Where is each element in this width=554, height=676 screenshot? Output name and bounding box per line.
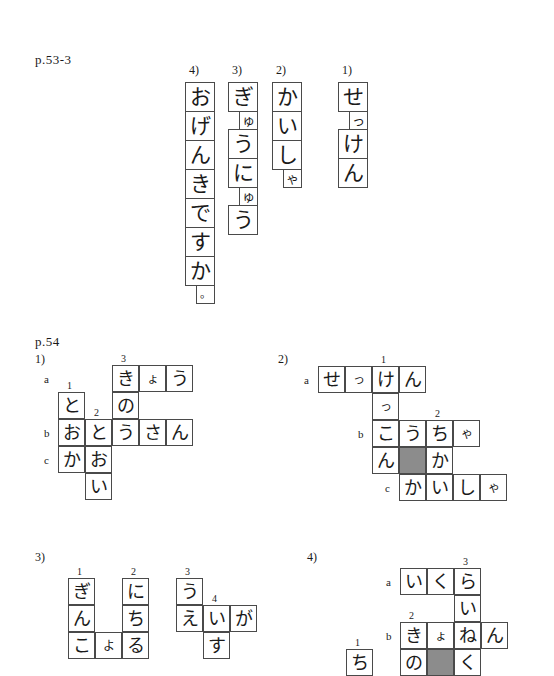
vertical-cell: ん	[185, 140, 215, 170]
crossword-cell: に	[122, 578, 149, 605]
crossword-cell: し	[453, 474, 480, 501]
crossword-cell: ん	[372, 447, 399, 474]
crossword-cell: ち	[426, 420, 453, 447]
crossword-cell: こ	[372, 420, 399, 447]
crossword-cell: う	[399, 420, 426, 447]
crossword-cell: ん	[68, 605, 95, 632]
puzzle-number: 1)	[35, 352, 45, 367]
crossword-cell: か	[58, 446, 85, 473]
clue-number: 2	[409, 610, 414, 621]
clue-number: 1	[67, 380, 72, 391]
vertical-cell-small: 。	[196, 285, 215, 304]
clue-number: 3	[121, 353, 126, 364]
crossword-cell: ぎ	[68, 578, 95, 605]
crossword-cell: う	[166, 365, 193, 392]
vertical-word-number: 2)	[276, 63, 286, 78]
row-label: b	[358, 428, 364, 440]
crossword-cell: く	[454, 649, 481, 676]
vertical-cell: け	[338, 129, 368, 159]
vertical-cell: う	[228, 205, 258, 235]
crossword-cell: っ	[372, 393, 399, 420]
crossword-cell: ん	[166, 419, 193, 446]
vertical-cell-small: ゃ	[283, 169, 302, 188]
vertical-cell: げ	[185, 111, 215, 141]
vertical-cell: い	[272, 111, 302, 141]
crossword-cell: と	[58, 392, 85, 419]
puzzle-number: 3)	[35, 550, 45, 565]
vertical-word-number: 3)	[232, 63, 242, 78]
vertical-cell: お	[185, 82, 215, 112]
vertical-cell-small: っ	[349, 111, 368, 130]
crossword-cell: う	[176, 578, 203, 605]
vertical-cell: で	[185, 198, 215, 228]
crossword-cell: う	[112, 419, 139, 446]
crossword-cell: す	[203, 632, 230, 659]
vertical-cell: に	[228, 158, 258, 188]
clue-number: 4	[212, 593, 217, 604]
vertical-cell: き	[185, 169, 215, 199]
crossword-cell: い	[203, 605, 230, 632]
crossword-cell: え	[176, 605, 203, 632]
vertical-cell: せ	[338, 82, 368, 112]
crossword-cell: き	[400, 622, 427, 649]
crossword-cell: ょ	[427, 622, 454, 649]
crossword-cell: い	[400, 568, 427, 595]
crossword-cell: ゃ	[453, 420, 480, 447]
row-label: a	[386, 576, 391, 588]
crossword-cell: か	[399, 474, 426, 501]
crossword-cell: が	[230, 605, 257, 632]
vertical-cell: ん	[338, 158, 368, 188]
clue-number: 2	[435, 408, 440, 419]
crossword-cell: さ	[139, 419, 166, 446]
clue-number: 1	[381, 354, 386, 365]
crossword-cell: お	[85, 446, 112, 473]
crossword-cell: る	[122, 632, 149, 659]
vertical-cell-small: ゅ	[239, 187, 258, 206]
row-label: c	[44, 454, 49, 466]
puzzle-number: 4)	[307, 550, 317, 565]
vertical-word-number: 4)	[189, 63, 199, 78]
section-label-p53: p.53-3	[35, 52, 72, 68]
clue-number: 3	[463, 556, 468, 567]
crossword-cell: の	[400, 649, 427, 676]
crossword-cell-shaded	[427, 649, 454, 676]
crossword-cell: ん	[399, 366, 426, 393]
row-label: c	[385, 482, 390, 494]
crossword-cell: ち	[122, 605, 149, 632]
row-label: a	[44, 373, 49, 385]
clue-number: 1	[77, 566, 82, 577]
crossword-cell: か	[426, 447, 453, 474]
vertical-cell-small: ゅ	[239, 111, 258, 130]
crossword-cell: せ	[318, 366, 345, 393]
vertical-cell: ぎ	[228, 82, 258, 112]
puzzle-number: 2)	[278, 352, 288, 367]
vertical-cell: か	[185, 256, 215, 286]
vertical-cell: う	[228, 129, 258, 159]
crossword-cell: い	[454, 595, 481, 622]
crossword-cell: ね	[454, 622, 481, 649]
crossword-cell: け	[372, 366, 399, 393]
crossword-cell: ゃ	[480, 474, 507, 501]
row-label: a	[304, 374, 309, 386]
clue-number: 2	[131, 566, 136, 577]
clue-number: 1	[355, 637, 360, 648]
vertical-cell: す	[185, 227, 215, 257]
vertical-cell: し	[272, 140, 302, 170]
crossword-cell: よ	[95, 632, 122, 659]
crossword-cell: こ	[68, 632, 95, 659]
crossword-cell: ち	[346, 649, 373, 676]
vertical-word-number: 1)	[342, 63, 352, 78]
crossword-cell: っ	[345, 366, 372, 393]
clue-number: 3	[185, 566, 190, 577]
crossword-cell: ら	[454, 568, 481, 595]
section-label-p54: p.54	[35, 334, 60, 350]
row-label: b	[386, 630, 392, 642]
vertical-cell: か	[272, 82, 302, 112]
crossword-cell-shaded	[399, 447, 426, 474]
crossword-cell: い	[426, 474, 453, 501]
crossword-cell: い	[85, 473, 112, 500]
crossword-cell: お	[58, 419, 85, 446]
crossword-cell: と	[85, 419, 112, 446]
crossword-cell: き	[112, 365, 139, 392]
